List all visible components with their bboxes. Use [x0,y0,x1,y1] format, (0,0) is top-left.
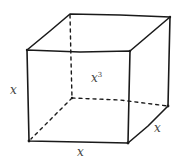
hidden-back-bottom-edge [72,98,168,106]
vertex-dot [28,140,31,143]
vertex-dot [169,16,171,18]
volume-label: x3 [91,72,102,84]
right-face [128,17,170,143]
vertex-dot [167,105,170,108]
vertex-dot [71,97,73,99]
front-face [27,50,130,143]
hidden-vertical-edge [70,15,72,98]
cube-diagram: x x3 x x [0,0,182,165]
volume-exponent: 3 [98,71,102,79]
width-label: x [77,146,84,158]
height-label: x [10,84,17,96]
vertex-dot [127,142,130,145]
vertex-dot [26,49,28,51]
volume-base: x [91,71,98,85]
top-face [27,14,170,51]
hidden-depth-edge [31,98,72,139]
vertex-dot [129,50,131,52]
depth-label: x [154,122,161,134]
